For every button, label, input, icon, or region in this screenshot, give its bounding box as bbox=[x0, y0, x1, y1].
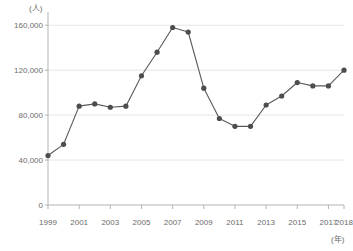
data-point-marker bbox=[77, 104, 82, 109]
data-point-marker bbox=[170, 25, 175, 30]
data-point-marker bbox=[45, 153, 50, 158]
data-point-marker bbox=[295, 80, 300, 85]
data-point-marker bbox=[264, 102, 269, 107]
data-series-line bbox=[48, 27, 344, 155]
data-point-marker bbox=[279, 93, 284, 98]
data-point-marker bbox=[201, 86, 206, 91]
data-point-marker bbox=[186, 29, 191, 34]
data-point-marker bbox=[92, 101, 97, 106]
data-point-marker bbox=[310, 83, 315, 88]
data-point-marker bbox=[217, 116, 222, 121]
data-point-marker bbox=[248, 124, 253, 129]
data-point-marker bbox=[341, 68, 346, 73]
data-point-marker bbox=[108, 105, 113, 110]
data-point-marker bbox=[326, 83, 331, 88]
data-point-marker bbox=[61, 142, 66, 147]
data-point-marker bbox=[154, 50, 159, 55]
data-point-marker bbox=[139, 73, 144, 78]
data-point-marker bbox=[123, 104, 128, 109]
data-point-marker bbox=[232, 124, 237, 129]
